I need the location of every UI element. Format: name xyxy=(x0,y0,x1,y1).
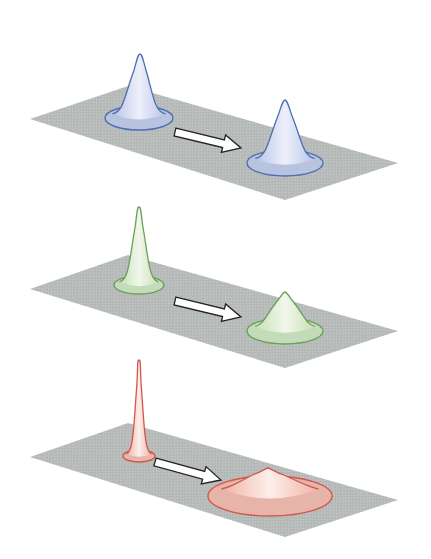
panel-top xyxy=(30,54,398,200)
diffusion-diagram xyxy=(0,0,431,559)
diagram-canvas xyxy=(0,0,431,559)
panel-middle xyxy=(30,207,398,368)
peak-initial xyxy=(114,207,164,294)
panel-bottom xyxy=(30,360,398,537)
